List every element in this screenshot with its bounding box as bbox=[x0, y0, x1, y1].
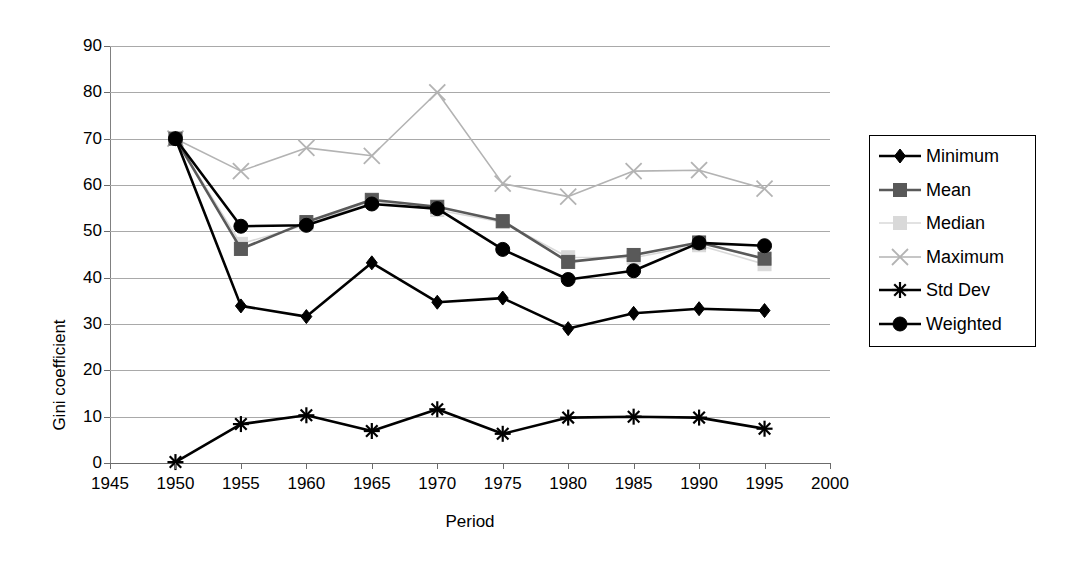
x-axis-tick bbox=[699, 463, 700, 469]
series-minimum bbox=[170, 132, 770, 336]
y-axis-tick-label: 40 bbox=[83, 269, 102, 286]
gridline bbox=[110, 463, 830, 464]
x-axis-tick bbox=[503, 463, 504, 469]
legend-item-mean[interactable]: Mean bbox=[876, 175, 1031, 205]
legend-item-label: Std Dev bbox=[924, 281, 990, 299]
legend-item-maximum[interactable]: Maximum bbox=[876, 242, 1031, 272]
y-axis-tick-label: 20 bbox=[83, 361, 102, 378]
x-axis-tick-label: 1960 bbox=[276, 474, 336, 494]
y-axis-tick bbox=[104, 370, 110, 371]
y-axis-tick-label: 10 bbox=[83, 408, 102, 425]
legend-marker-square-icon bbox=[876, 209, 924, 237]
data-series-layer bbox=[110, 46, 830, 463]
x-axis-tick bbox=[634, 463, 635, 469]
y-axis-tick bbox=[104, 324, 110, 325]
x-axis-title: Period bbox=[110, 512, 830, 532]
chart-plot-region: 9080706050403020100 Gini coefficient 194… bbox=[0, 0, 860, 562]
legend-item-label: Minimum bbox=[924, 147, 999, 165]
chart-legend[interactable]: MinimumMeanMedianMaximumStd DevWeighted bbox=[869, 135, 1036, 347]
x-axis-tick-label: 1970 bbox=[407, 474, 467, 494]
y-axis-tick bbox=[104, 231, 110, 232]
x-axis-tick-label: 1985 bbox=[604, 474, 664, 494]
y-axis-tick-label: 70 bbox=[83, 130, 102, 147]
x-axis-tick bbox=[765, 463, 766, 469]
x-axis-tick-label: 1990 bbox=[669, 474, 729, 494]
x-axis-tick bbox=[437, 463, 438, 469]
chart-page: 9080706050403020100 Gini coefficient 194… bbox=[0, 0, 1080, 562]
legend-item-std-dev[interactable]: Std Dev bbox=[876, 275, 1031, 305]
legend-item-label: Mean bbox=[924, 181, 971, 199]
legend-item-label: Maximum bbox=[924, 248, 1004, 266]
x-axis-tick-label: 1975 bbox=[473, 474, 533, 494]
x-axis-tick-label: 1945 bbox=[80, 474, 140, 494]
x-axis-tick-label: 1980 bbox=[538, 474, 598, 494]
legend-item-minimum[interactable]: Minimum bbox=[876, 141, 1031, 171]
legend-marker-diamond-icon bbox=[876, 142, 924, 170]
legend-item-label: Median bbox=[924, 214, 985, 232]
y-axis-title: Gini coefficient bbox=[50, 275, 70, 475]
plot-canvas bbox=[110, 46, 830, 463]
y-axis-tick-label: 90 bbox=[83, 37, 102, 54]
legend-item-weighted[interactable]: Weighted bbox=[876, 309, 1031, 339]
y-axis-tick bbox=[104, 185, 110, 186]
y-axis-tick bbox=[104, 92, 110, 93]
series-std-dev bbox=[167, 401, 772, 470]
y-axis-tick-label: 0 bbox=[93, 454, 102, 471]
x-axis-tick bbox=[241, 463, 242, 469]
legend-item-median[interactable]: Median bbox=[876, 208, 1031, 238]
legend-marker-cross-icon bbox=[876, 243, 924, 271]
y-axis-tick bbox=[104, 139, 110, 140]
x-axis-tick bbox=[175, 463, 176, 469]
y-axis-tick bbox=[104, 46, 110, 47]
x-axis-tick-label: 2000 bbox=[800, 474, 860, 494]
x-axis-tick bbox=[568, 463, 569, 469]
y-axis-tick bbox=[104, 417, 110, 418]
x-axis-tick-label: 1955 bbox=[211, 474, 271, 494]
x-axis-tick bbox=[306, 463, 307, 469]
y-axis-tick-label: 50 bbox=[83, 222, 102, 239]
y-axis-tick-label: 60 bbox=[83, 176, 102, 193]
legend-marker-star-icon bbox=[876, 276, 924, 304]
y-axis-title-wrapper: Gini coefficient bbox=[30, 155, 50, 355]
y-axis-tick-label: 80 bbox=[83, 83, 102, 100]
x-axis-tick bbox=[372, 463, 373, 469]
x-axis-tick bbox=[830, 463, 831, 469]
y-axis-tick-label: 30 bbox=[83, 315, 102, 332]
legend-item-label: Weighted bbox=[924, 315, 1002, 333]
x-axis-tick bbox=[110, 463, 111, 469]
legend-marker-square-icon bbox=[876, 176, 924, 204]
x-axis-tick-label: 1995 bbox=[735, 474, 795, 494]
x-axis-tick-label: 1965 bbox=[342, 474, 402, 494]
y-axis-tick bbox=[104, 278, 110, 279]
series-maximum bbox=[167, 84, 772, 204]
series-weighted bbox=[168, 132, 771, 287]
x-axis-tick-label: 1950 bbox=[145, 474, 205, 494]
legend-marker-circle-icon bbox=[876, 310, 924, 338]
